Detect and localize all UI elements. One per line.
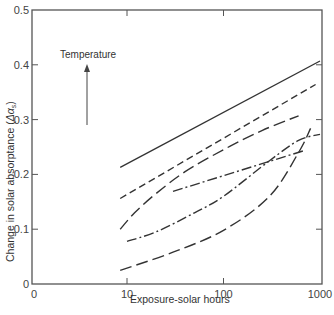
data-series xyxy=(120,61,320,270)
y-tick-label: 0.4 xyxy=(14,59,29,71)
y-tick-label: 0.5 xyxy=(14,4,29,16)
series-curve-2-short-dash xyxy=(120,85,315,199)
x-tick-label: 0 xyxy=(31,288,37,300)
y-axis-title: Change in solar absorptance (Δαs) xyxy=(4,101,17,262)
x-tick-label: 1000 xyxy=(308,288,332,300)
series-curve-3-long-dash xyxy=(120,116,298,229)
x-axis-title: Exposure-solar hours xyxy=(130,293,230,305)
y-tick-label: 0 xyxy=(23,278,29,290)
temperature-arrow-icon xyxy=(84,64,90,125)
chart: 00.10.20.30.40.5 0101001000 Temperature … xyxy=(0,0,334,315)
temperature-label: Temperature xyxy=(60,49,117,60)
y-axis: 00.10.20.30.40.5 xyxy=(14,4,322,290)
